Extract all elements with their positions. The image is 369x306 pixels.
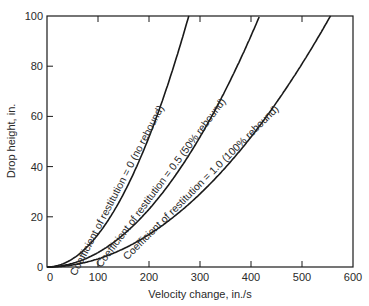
- drop-height-chart: 0100200300400500600 020406080100 Coeffic…: [0, 0, 369, 306]
- y-tick-label: 0: [37, 261, 43, 273]
- x-tick-label: 200: [140, 271, 158, 283]
- x-tick-label: 300: [191, 271, 209, 283]
- y-tick-label: 80: [31, 60, 43, 72]
- x-tick-label: 0: [47, 271, 53, 283]
- x-axis-label: Velocity change, in./s: [148, 288, 252, 300]
- y-tick-label: 100: [25, 10, 43, 22]
- y-tick-label: 60: [31, 110, 43, 122]
- x-tick-label: 500: [293, 271, 311, 283]
- x-tick-label: 400: [242, 271, 260, 283]
- y-axis-label: Drop height, in.: [5, 104, 17, 179]
- y-axis-ticks: 020406080100: [25, 10, 53, 273]
- curve-labels: Coefficient of restitution = 0 (no rebou…: [67, 95, 281, 277]
- x-tick-label: 100: [89, 271, 107, 283]
- y-tick-label: 20: [31, 211, 43, 223]
- y-tick-label: 40: [31, 161, 43, 173]
- x-tick-label: 600: [344, 271, 362, 283]
